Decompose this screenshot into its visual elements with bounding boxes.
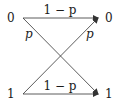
bottom-edge-label: 1 − p (44, 79, 77, 93)
cross-right-label: p (86, 27, 94, 41)
input-1-label: 1 (7, 87, 15, 101)
binary-symmetric-channel-diagram: 0 1 0 1 1 − p 1 − p p p (0, 0, 122, 106)
cross-left-label: p (25, 27, 33, 41)
top-edge-label: 1 − p (44, 3, 77, 17)
input-0-label: 0 (7, 11, 15, 25)
output-0-label: 0 (105, 11, 113, 25)
output-1-label: 1 (105, 87, 113, 101)
